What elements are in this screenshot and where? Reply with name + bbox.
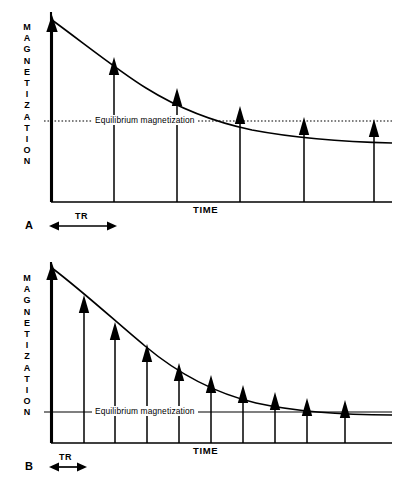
panel-b-pulse-arrow-10: [340, 400, 350, 443]
panel-a-pulse-arrow-1: [46, 15, 57, 202]
panel-b-tr-marker: [49, 463, 87, 472]
panel-b: MAGNETIZATION: [0, 248, 408, 493]
panel-a-x-axis-label: TIME: [193, 204, 218, 215]
panel-b-pulse-arrow-4: [142, 344, 152, 443]
panel-a-tr-label: TR: [75, 211, 88, 221]
panel-a-tr-marker: [49, 222, 117, 231]
panel-b-pulse-arrow-5: [174, 363, 184, 443]
panel-a-pulse-arrow-2: [109, 57, 119, 202]
panel-a-pulse-arrows: [46, 15, 379, 202]
panel-a-pulse-arrow-3: [172, 88, 182, 202]
panel-b-tr-label: TR: [59, 452, 72, 462]
panel-b-pulse-arrow-1: [46, 263, 57, 443]
panel-b-x-axis-label: TIME: [193, 445, 218, 456]
panel-a-letter: A: [25, 219, 33, 231]
panel-b-equilibrium-label: Equilibrium magnetization: [92, 406, 198, 416]
panel-a-equilibrium-label: Equilibrium magnetization: [92, 115, 198, 125]
panel-b-pulse-arrows: [46, 263, 350, 443]
panel-b-pulse-arrow-7: [238, 385, 248, 443]
panel-b-pulse-arrow-9: [302, 398, 312, 443]
panel-a-pulse-arrow-5: [299, 117, 309, 202]
panel-a: MAGNETIZATION: [0, 0, 408, 248]
panel-a-pulse-arrow-4: [235, 106, 245, 202]
panel-b-recovery-curve: [52, 268, 392, 415]
panel-b-pulse-arrow-8: [270, 392, 280, 443]
panel-b-letter: B: [25, 460, 33, 472]
panel-a-pulse-arrow-6: [369, 119, 379, 202]
magnetization-figure: MAGNETIZATION: [0, 0, 408, 493]
panel-b-pulse-arrow-2: [79, 295, 89, 443]
panel-b-pulse-arrow-3: [110, 322, 120, 443]
